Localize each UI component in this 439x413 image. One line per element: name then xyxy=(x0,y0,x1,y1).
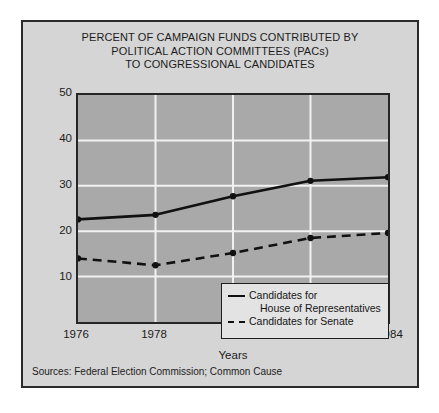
legend-label-house: Candidates for House of Representatives xyxy=(249,289,382,315)
data-point-s1-1982 xyxy=(307,178,313,184)
y-tick-label-40: 40 xyxy=(42,133,72,145)
y-tick-label-20: 20 xyxy=(42,225,72,237)
chart-title-line-3: TO CONGRESSIONAL CANDIDATES xyxy=(23,58,417,72)
data-point-s2-1978 xyxy=(152,262,158,268)
x-tick-label-1976: 1976 xyxy=(53,329,99,341)
legend-item-senate: Candidates for Senate xyxy=(228,315,382,328)
data-point-s2-1976 xyxy=(78,255,81,261)
data-point-s2-1982 xyxy=(307,235,313,241)
legend-label-house-line1: Candidates for xyxy=(249,289,317,301)
legend-item-house: Candidates for House of Representatives xyxy=(228,289,382,315)
y-tick-label-50: 50 xyxy=(42,87,72,99)
chart-title: PERCENT OF CAMPAIGN FUNDS CONTRIBUTED BY… xyxy=(23,31,417,72)
data-point-s1-1978 xyxy=(152,212,158,218)
source-note: Sources: Federal Election Commission; Co… xyxy=(32,366,282,377)
data-point-s1-1984 xyxy=(385,174,388,180)
y-tick-label-30: 30 xyxy=(42,179,72,191)
chart-title-line-1: PERCENT OF CAMPAIGN FUNDS CONTRIBUTED BY xyxy=(23,31,417,45)
legend-line-dashed-icon xyxy=(228,315,245,328)
legend-label-house-line2: House of Representatives xyxy=(249,302,382,315)
legend: Candidates for House of Representatives … xyxy=(221,283,389,339)
x-tick-label-1978: 1978 xyxy=(131,329,177,341)
legend-line-solid-icon xyxy=(228,289,245,302)
legend-label-senate: Candidates for Senate xyxy=(249,315,382,328)
chart-title-line-2: POLITICAL ACTION COMMITTEES (PACs) xyxy=(23,45,417,59)
data-point-s2-1980 xyxy=(230,250,236,256)
figure-frame: PERCENT OF CAMPAIGN FUNDS CONTRIBUTED BY… xyxy=(21,20,419,388)
data-point-s1-1976 xyxy=(78,216,81,222)
data-point-s1-1980 xyxy=(230,193,236,199)
x-axis-title: Years xyxy=(76,349,390,361)
y-tick-label-10: 10 xyxy=(42,271,72,283)
